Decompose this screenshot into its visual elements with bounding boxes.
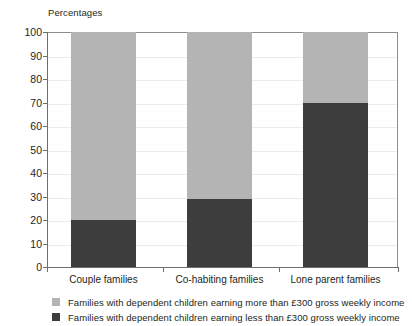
y-axis-tick-label: 10 [2, 238, 42, 250]
y-axis-tick-label: 80 [2, 73, 42, 85]
legend-item-label: Families with dependent children earning… [68, 297, 404, 308]
y-axis-tick-label: 40 [2, 167, 42, 179]
plot-area [47, 32, 398, 267]
bar-segment-more-than-300 [303, 32, 368, 103]
x-axis-line [47, 267, 399, 268]
y-axis-line [47, 32, 48, 268]
legend-item-label: Families with dependent children earning… [68, 312, 400, 323]
chart-legend: Families with dependent children earning… [52, 295, 402, 325]
y-axis-tick-label: 90 [2, 50, 42, 62]
y-axis-tick-label: 50 [2, 144, 42, 156]
y-axis-tick-labels: 0102030405060708090100 [0, 32, 42, 267]
bar-segment-more-than-300 [71, 32, 136, 220]
x-axis-category-label: Co-habiting families [176, 274, 264, 285]
x-axis-tick-mark [279, 267, 280, 272]
x-axis-category-label: Couple families [69, 274, 137, 285]
legend-color-swatch [52, 313, 60, 321]
y-axis-title: Percentages [48, 7, 102, 18]
y-axis-tick-label: 20 [2, 214, 42, 226]
x-axis-category-label: Lone parent families [290, 274, 380, 285]
bar-segment-less-than-300 [303, 103, 368, 268]
stacked-bar-chart: Percentages 0102030405060708090100 Famil… [0, 0, 412, 326]
y-axis-tick-label: 70 [2, 97, 42, 109]
legend-color-swatch [52, 298, 60, 306]
bar-segment-less-than-300 [71, 220, 136, 267]
y-axis-tick-label: 0 [2, 261, 42, 273]
x-axis-tick-mark [398, 267, 399, 272]
x-axis-tick-mark [47, 267, 48, 272]
legend-item: Families with dependent children earning… [52, 295, 402, 309]
bar-segment-more-than-300 [187, 32, 252, 199]
y-axis-tick-label: 30 [2, 191, 42, 203]
y-axis-tick-label: 100 [2, 26, 42, 38]
y-axis-tick-label: 60 [2, 120, 42, 132]
legend-item: Families with dependent children earning… [52, 310, 402, 324]
bar-segment-less-than-300 [187, 199, 252, 267]
x-axis-tick-mark [163, 267, 164, 272]
